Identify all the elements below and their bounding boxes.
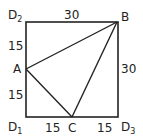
segment-AC [26,69,72,117]
square-triangle-diagram: D2 B A D1 C D3 30 30 15 15 15 15 [0,0,143,138]
label-A: A [13,62,22,76]
length-left-lower: 15 [8,88,23,102]
length-bottom-left: 15 [45,121,60,135]
label-D2: D2 [8,8,22,24]
label-D3: D3 [121,120,135,136]
square-outline [26,22,118,117]
label-B: B [121,10,129,24]
label-D1: D1 [8,120,22,136]
length-left-upper: 15 [8,39,23,53]
length-bottom-right: 15 [97,121,112,135]
segment-AB [26,22,117,69]
label-C: C [68,121,76,135]
length-right: 30 [121,62,136,76]
length-top: 30 [64,8,79,22]
segment-CB [72,22,117,117]
